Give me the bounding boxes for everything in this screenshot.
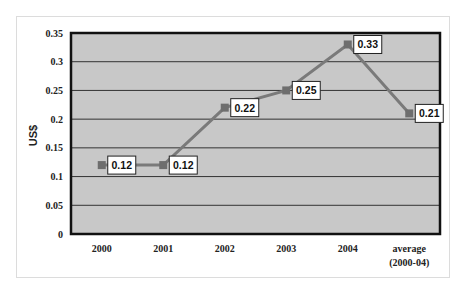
x-tick-label: 2002 (215, 243, 235, 254)
y-tick-label: 0.15 (46, 142, 64, 153)
y-tick-label: 0.25 (46, 85, 64, 96)
line-chart: 00.050.10.150.20.250.30.35US$20002001200… (0, 0, 469, 296)
x-tick-label: (2000-04) (389, 257, 429, 269)
data-label: 0.12 (173, 159, 194, 171)
data-marker (98, 161, 106, 169)
data-marker (282, 86, 290, 94)
y-tick-label: 0.2 (51, 114, 64, 125)
x-tick-label: 2004 (338, 243, 358, 254)
data-label: 0.12 (112, 159, 133, 171)
plot-area (71, 33, 440, 234)
x-tick-label: 2000 (92, 243, 112, 254)
y-tick-label: 0 (58, 229, 63, 240)
data-marker (405, 109, 413, 117)
x-tick-label: average (393, 243, 427, 254)
data-label: 0.21 (419, 107, 440, 119)
x-tick-label: 2003 (276, 243, 296, 254)
y-axis-label: US$ (27, 125, 39, 146)
y-tick-label: 0.3 (51, 56, 64, 67)
data-marker (344, 40, 352, 48)
data-label: 0.33 (358, 38, 379, 50)
y-tick-label: 0.1 (51, 171, 64, 182)
y-tick-label: 0.05 (46, 200, 64, 211)
data-marker (159, 161, 167, 169)
x-tick-label: 2001 (153, 243, 173, 254)
data-label: 0.22 (235, 102, 256, 114)
data-marker (221, 104, 229, 112)
data-label: 0.25 (296, 84, 317, 96)
y-tick-label: 0.35 (46, 28, 64, 39)
